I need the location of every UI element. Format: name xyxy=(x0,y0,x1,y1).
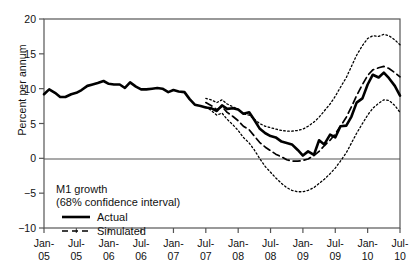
chart-container: Percent per annum −10−505101520 Jan-05Ju… xyxy=(0,0,412,280)
x-tick-label-month: Jul- xyxy=(133,237,150,249)
x-tick-label-month: Jan- xyxy=(293,237,314,249)
x-tick-label-year: 06 xyxy=(103,250,115,262)
x-tick-label-year: 05 xyxy=(71,250,83,262)
x-tick-label-month: Jan- xyxy=(99,237,120,249)
x-tick-label-year: 07 xyxy=(200,250,212,262)
x-tick-label-year: 06 xyxy=(135,250,147,262)
y-tick-label: 20 xyxy=(24,13,36,25)
legend-annotation-1: M1 growth xyxy=(56,183,107,195)
legend-label-actual: Actual xyxy=(97,211,128,223)
m1-growth-chart: −10−505101520 Jan-05Jul-05Jan-06Jul-06Ja… xyxy=(0,0,412,280)
x-tick-label-month: Jul- xyxy=(68,237,85,249)
x-axis-ticks: Jan-05Jul-05Jan-06Jul-06Jan-07Jul-07Jan-… xyxy=(34,228,409,262)
x-tick-label-year: 10 xyxy=(362,250,374,262)
x-tick-label-month: Jul- xyxy=(392,237,409,249)
legend-label-simulated: Simulated xyxy=(97,225,146,237)
x-tick-label-month: Jan- xyxy=(34,237,55,249)
x-tick-label-month: Jul- xyxy=(327,237,344,249)
x-tick-label-year: 09 xyxy=(297,250,309,262)
y-tick-label: −5 xyxy=(24,187,36,199)
x-tick-label-month: Jul- xyxy=(197,237,214,249)
x-tick-label-month: Jan- xyxy=(163,237,184,249)
x-tick-label-year: 09 xyxy=(329,250,341,262)
x-tick-label-year: 05 xyxy=(38,250,50,262)
x-tick-label-year: 10 xyxy=(394,250,406,262)
y-tick-label: −10 xyxy=(18,222,36,234)
x-tick-label-year: 08 xyxy=(232,250,244,262)
legend-annotation-2: (68% confidence interval) xyxy=(56,196,180,208)
y-tick-label: 5 xyxy=(30,118,36,130)
x-tick-label-month: Jan- xyxy=(357,237,378,249)
x-tick-label-month: Jul- xyxy=(262,237,279,249)
x-tick-label-year: 07 xyxy=(168,250,180,262)
y-axis-label: Percent per annum xyxy=(16,30,28,150)
y-tick-label: 0 xyxy=(30,152,36,164)
x-tick-label-month: Jan- xyxy=(228,237,249,249)
x-tick-label-year: 08 xyxy=(265,250,277,262)
